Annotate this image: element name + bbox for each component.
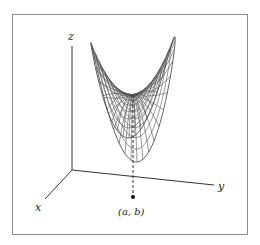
critical-point-label: (a, b) — [118, 207, 145, 217]
y-axis-label: y — [218, 181, 224, 192]
critical-point-dot — [131, 195, 135, 199]
x-axis-label: x — [35, 202, 41, 213]
x-axis — [45, 170, 72, 199]
saddle-surface-mesh — [91, 37, 175, 163]
z-axis-label: z — [68, 31, 74, 42]
y-axis — [72, 170, 214, 185]
